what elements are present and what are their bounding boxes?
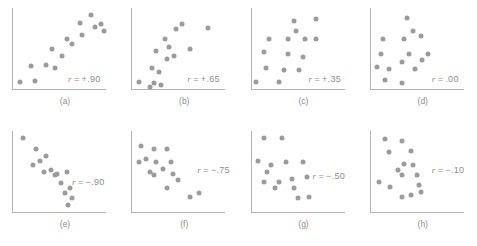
scatter-panel-a: r = +.90(a) [0, 0, 119, 123]
data-point [409, 148, 414, 153]
data-point [407, 51, 412, 56]
data-point [172, 53, 177, 58]
x-axis-f [131, 212, 225, 213]
data-point [412, 66, 417, 71]
correlation-label-e: r = −.90 [72, 177, 105, 187]
x-axis-g [251, 212, 345, 213]
data-point [280, 135, 285, 140]
data-point [206, 25, 211, 30]
y-axis-d [370, 8, 371, 90]
data-point [418, 33, 423, 38]
data-point [163, 37, 168, 42]
scatter-panel-c: r = +.35(c) [239, 0, 358, 123]
scatter-panel-e: r = −.90(e) [0, 123, 119, 246]
data-point [416, 183, 421, 188]
data-point [399, 60, 404, 65]
plot-area-h: r = −.10 [370, 131, 464, 213]
data-point [410, 28, 415, 33]
correlation-label-h: r = −.10 [432, 165, 465, 175]
data-point [301, 55, 306, 60]
data-point [77, 20, 82, 25]
data-point [293, 28, 298, 33]
data-point [418, 189, 423, 194]
panel-caption-g: (g) [251, 219, 357, 229]
data-point [386, 150, 391, 155]
data-point [59, 53, 64, 58]
data-point [256, 158, 261, 163]
correlation-label-g: r = −.50 [313, 171, 346, 181]
data-point [405, 15, 410, 20]
data-point [187, 194, 192, 199]
data-point [286, 51, 291, 56]
data-point [153, 49, 158, 54]
data-point [426, 51, 431, 56]
data-point [136, 160, 141, 165]
data-point [304, 174, 309, 179]
data-point [399, 138, 404, 143]
data-point [399, 194, 404, 199]
data-point [53, 65, 58, 70]
data-point [388, 184, 393, 189]
x-axis-d [370, 89, 464, 90]
data-point [291, 19, 296, 24]
data-point [261, 179, 266, 184]
correlation-label-a: r = +.90 [68, 74, 101, 84]
data-point [382, 78, 387, 83]
data-point [49, 168, 54, 173]
data-point [99, 22, 104, 27]
correlation-label-f: r = −.75 [197, 165, 230, 175]
data-point [88, 12, 93, 17]
data-point [289, 176, 294, 181]
data-point [286, 37, 291, 42]
scatter-panel-g: r = −.50(g) [239, 123, 358, 246]
data-point [314, 17, 319, 22]
data-point [386, 66, 391, 71]
data-point [21, 135, 26, 140]
data-point [380, 37, 385, 42]
x-axis-c [251, 89, 345, 90]
data-point [375, 65, 380, 70]
data-point [50, 47, 55, 52]
y-axis-f [131, 131, 132, 213]
y-axis-e [12, 131, 13, 213]
scatter-panel-f: r = −.75(f) [119, 123, 238, 246]
data-point [379, 51, 384, 56]
x-axis-h [370, 212, 464, 213]
x-axis-e [12, 212, 106, 213]
data-point [149, 65, 154, 70]
data-point [92, 24, 97, 29]
data-point [55, 171, 60, 176]
panel-caption-b: (b) [131, 96, 237, 106]
data-point [43, 153, 48, 158]
panel-caption-e: (e) [12, 219, 118, 229]
data-point [138, 143, 143, 148]
data-point [168, 160, 173, 165]
data-point [43, 63, 48, 68]
plot-area-g: r = −.50 [251, 131, 345, 213]
data-point [176, 178, 181, 183]
plot-area-b: r = +.65 [131, 8, 225, 90]
data-point [164, 56, 169, 61]
data-point [153, 160, 158, 165]
data-point [174, 27, 179, 32]
data-point [409, 192, 414, 197]
panel-caption-a: (a) [12, 96, 118, 106]
scatter-panel-h: r = −.10(h) [358, 123, 477, 246]
data-point [382, 137, 387, 142]
data-point [269, 163, 274, 168]
data-point [272, 186, 277, 191]
data-point [62, 191, 67, 196]
data-point [395, 168, 400, 173]
y-axis-b [131, 8, 132, 90]
data-point [297, 68, 302, 73]
data-point [180, 22, 185, 27]
data-point [303, 37, 308, 42]
panel-row-top: r = +.90(a)r = +.65(b)r = +.35(c)r = .00… [0, 0, 477, 123]
y-axis-g [251, 131, 252, 213]
data-point [30, 163, 35, 168]
plot-area-e: r = −.90 [12, 131, 106, 213]
data-point [38, 158, 43, 163]
data-point [263, 65, 268, 70]
data-point [420, 58, 425, 63]
data-point [254, 79, 259, 84]
